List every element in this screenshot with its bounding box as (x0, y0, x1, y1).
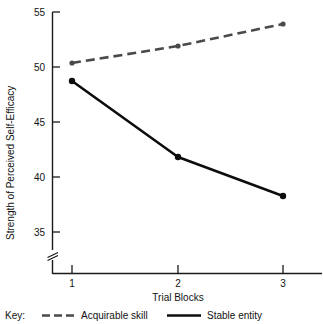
x-axis-title: Trial Blocks (152, 292, 203, 303)
y-tick-label-35: 35 (34, 227, 46, 238)
series-stable-entity-line (72, 81, 283, 196)
x-tick-group: 1 2 3 (69, 265, 286, 289)
y-tick-label-55: 55 (34, 7, 46, 18)
y-axis-title: Strength of Perceived Self-Efficacy (5, 86, 16, 240)
chart-canvas: 55 50 45 40 35 1 2 3 Strength of Perceiv… (0, 0, 323, 324)
data-point-stable-2 (175, 154, 181, 160)
x-tick-label-2: 2 (175, 278, 181, 289)
y-tick-group: 55 50 45 40 35 (34, 7, 60, 238)
series-acquirable-skill (69, 21, 285, 65)
legend-label-acquirable-skill: Acquirable skill (81, 310, 148, 321)
x-tick-label-3: 3 (280, 278, 286, 289)
axis-break-icon (47, 250, 58, 261)
legend-label-stable-entity: Stable entity (207, 310, 262, 321)
data-point-acquirable-2 (175, 43, 180, 48)
data-point-stable-1 (69, 78, 75, 84)
chart-legend: Key: Acquirable skill Stable entity (5, 310, 262, 321)
y-tick-label-45: 45 (34, 117, 46, 128)
y-tick-label-50: 50 (34, 62, 46, 73)
series-stable-entity (69, 78, 286, 199)
figure-self-efficacy-line-chart: 55 50 45 40 35 1 2 3 Strength of Perceiv… (0, 0, 323, 324)
legend-entry-stable-entity: Stable entity (167, 310, 262, 321)
x-tick-label-1: 1 (69, 278, 75, 289)
data-point-acquirable-3 (280, 21, 285, 26)
data-point-acquirable-1 (69, 60, 74, 65)
data-point-stable-3 (280, 193, 286, 199)
y-tick-label-40: 40 (34, 172, 46, 183)
legend-entry-acquirable-skill: Acquirable skill (42, 310, 148, 321)
legend-key-label: Key: (5, 310, 25, 321)
